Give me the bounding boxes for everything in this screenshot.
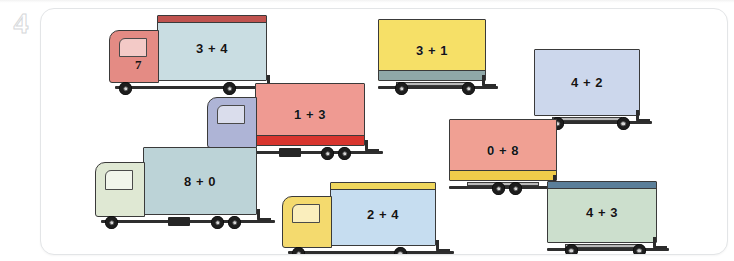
fuel-tank — [168, 217, 190, 226]
cargo-box: 0 + 8 — [449, 119, 557, 181]
wheel — [321, 147, 334, 160]
cargo-box: 8 + 0 — [143, 147, 257, 215]
addition-expression: 3 + 1 — [416, 43, 448, 58]
rear-hitch — [257, 209, 271, 221]
wheel — [228, 216, 241, 229]
cargo-band-top — [548, 182, 656, 189]
cargo-band-bottom — [450, 170, 556, 180]
cab-window — [105, 170, 133, 190]
wheel — [633, 244, 646, 255]
cargo-band-bottom — [379, 70, 485, 80]
cab-window — [119, 38, 147, 58]
trailer[interactable]: 3 + 1 — [378, 19, 500, 103]
wheel — [119, 82, 132, 95]
cargo-band-bottom — [256, 135, 364, 145]
cab-window — [292, 204, 320, 223]
truck-cab: 7 — [109, 30, 159, 83]
addition-expression: 0 + 8 — [487, 143, 519, 158]
addition-expression: 8 + 0 — [184, 174, 216, 189]
cargo-box: 3 + 4 — [157, 15, 267, 81]
cargo-box: 2 + 4 — [330, 182, 436, 246]
cab-number: 7 — [135, 57, 142, 73]
wheel — [492, 182, 505, 195]
cargo-box: 4 + 3 — [547, 181, 657, 243]
wheel — [462, 82, 475, 95]
exercise-card: 3 + 473 + 14 + 21 + 30 + 88 + 02 + 44 + … — [40, 8, 728, 255]
chassis-rail — [288, 251, 454, 254]
wheel — [395, 82, 408, 95]
cargo-band-top — [331, 183, 435, 190]
top-divider — [0, 0, 734, 3]
cargo-box: 3 + 1 — [378, 19, 486, 81]
addition-expression: 2 + 4 — [367, 207, 399, 222]
cab-window — [217, 105, 245, 124]
cargo-box: 1 + 3 — [255, 83, 365, 146]
truck-cab — [95, 162, 145, 217]
cargo-box: 4 + 2 — [534, 49, 640, 116]
wheel — [211, 216, 224, 229]
addition-expression: 1 + 3 — [294, 107, 326, 122]
wheel — [565, 244, 578, 255]
fuel-tank — [279, 148, 301, 157]
truck-cab — [282, 196, 332, 248]
trailer[interactable]: 4 + 3 — [547, 181, 671, 255]
truck[interactable]: 8 + 0 — [95, 147, 275, 237]
addition-expression: 4 + 2 — [571, 75, 603, 90]
wheel — [509, 182, 522, 195]
rear-hitch — [436, 240, 450, 252]
rear-hitch — [636, 110, 650, 122]
wheel — [394, 247, 407, 255]
addition-expression: 3 + 4 — [196, 41, 228, 56]
wheel — [338, 147, 351, 160]
wheel — [292, 247, 305, 255]
cargo-band-top — [158, 16, 266, 23]
wheel — [105, 216, 118, 229]
wheel — [617, 117, 630, 130]
rear-hitch — [365, 140, 379, 152]
rear-hitch — [482, 75, 496, 87]
rear-hitch — [653, 237, 667, 249]
exercise-number: 4 — [4, 6, 38, 40]
truck[interactable]: 2 + 4 — [282, 182, 454, 255]
addition-expression: 4 + 3 — [586, 205, 618, 220]
truck-cab — [207, 97, 257, 148]
worksheet-page: 4 3 + 473 + 14 + 21 + 30 + 88 + 02 + 44 … — [0, 0, 734, 261]
